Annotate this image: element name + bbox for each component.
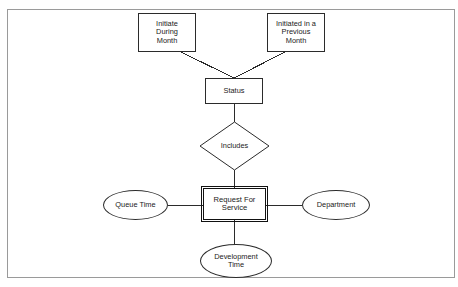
- attribute-development-time[interactable]: Development Time: [200, 244, 272, 278]
- attribute-department-label: Department: [315, 201, 358, 209]
- attribute-queue-time[interactable]: Queue Time: [103, 190, 168, 220]
- initiate-during-month-to-status: [181, 52, 234, 78]
- entity-request-for-service[interactable]: Request For Service: [203, 188, 266, 220]
- attribute-development-time-label: Development Time: [212, 253, 260, 270]
- initiated-previous-month-to-status: [234, 52, 285, 78]
- attribute-queue-time-label: Queue Time: [113, 201, 157, 209]
- entity-request-for-service-label: Request For Service: [212, 196, 258, 213]
- relationship-includes-label: Includes: [219, 142, 251, 150]
- entity-status[interactable]: Status: [205, 78, 263, 104]
- attribute-department[interactable]: Department: [302, 190, 370, 220]
- relationship-includes[interactable]: Includes: [200, 122, 269, 170]
- entity-initiate-during-month[interactable]: Initiate During Month: [138, 13, 196, 52]
- screenshot-root: Initiate During Month Initiated in a Pre…: [0, 0, 458, 287]
- entity-initiated-in-a-previous-month-label: Initiated in a Previous Month: [274, 20, 318, 45]
- entity-initiated-in-a-previous-month[interactable]: Initiated in a Previous Month: [267, 13, 325, 52]
- entity-initiate-during-month-label: Initiate During Month: [154, 20, 180, 45]
- entity-status-label: Status: [222, 87, 247, 95]
